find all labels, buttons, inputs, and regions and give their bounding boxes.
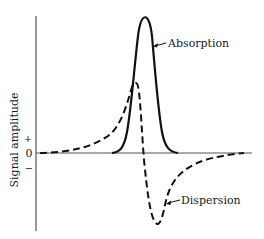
tick-zero: 0 [26, 147, 33, 160]
dispersion-label: Dispersion [181, 194, 241, 207]
tick-minus: − [25, 163, 33, 174]
y-axis-label: Signal amplitude [8, 93, 21, 188]
tick-plus: + [24, 133, 32, 144]
absorption-label: Absorption [167, 37, 229, 50]
absorption-dispersion-diagram: + 0 − Signal amplitude Absorption Disper… [0, 0, 264, 239]
